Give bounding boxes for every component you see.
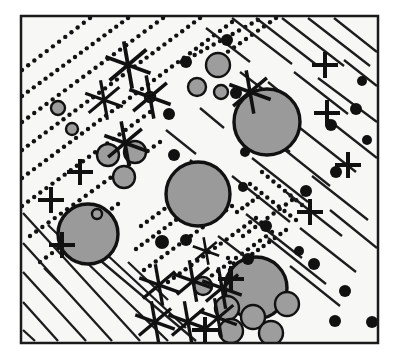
hatch-dot [142, 29, 146, 33]
clast-circle [166, 162, 230, 226]
figure-root [0, 0, 397, 358]
hatch-dot [130, 123, 134, 127]
hatch-dot [140, 243, 144, 247]
hatch-dot [56, 149, 60, 153]
hatch-dot [186, 25, 190, 29]
hatch-dot [251, 199, 255, 203]
clast-circle [66, 123, 78, 135]
hatch-dot [93, 66, 97, 70]
hatch-dot [260, 170, 264, 174]
hatch-dot [261, 244, 265, 248]
hatch-dot [112, 52, 116, 56]
hatch-dot [244, 37, 248, 41]
hatch-dot [44, 130, 48, 134]
hatch-dot [57, 39, 61, 43]
hatch-dot [155, 20, 159, 24]
hatch-dot [258, 238, 262, 242]
black-dot [155, 235, 169, 249]
hatch-dot [277, 184, 281, 188]
hatch-dot [145, 220, 149, 224]
hatch-dot [37, 81, 41, 85]
hatch-dot [79, 50, 83, 54]
hatch-dot [222, 264, 226, 268]
hatch-dot [56, 177, 60, 181]
hatch-dot [188, 51, 192, 55]
hatch-dot [32, 111, 36, 115]
hatch-dot [234, 256, 238, 260]
hatch-dot [271, 200, 275, 204]
black-dot [294, 246, 304, 256]
hatch-dot [32, 167, 36, 171]
hatch-dot [68, 140, 72, 144]
hatch-dot [168, 222, 172, 226]
hatch-dot [46, 220, 50, 224]
hatch-dot [87, 70, 91, 74]
hatch-dot [98, 118, 102, 122]
hatch-dot [62, 172, 66, 176]
hatch-dot [59, 211, 63, 215]
hatch-dot [142, 114, 146, 118]
hatch-dot [183, 267, 187, 271]
hatch-dot [265, 195, 269, 199]
hatch-dot [38, 162, 42, 166]
hatch-dot [238, 41, 242, 45]
hatch-dot [152, 78, 156, 82]
hatch-dot [140, 87, 144, 91]
hatch-dot [75, 79, 79, 83]
black-dot [260, 220, 272, 232]
hatch-dot [200, 42, 204, 46]
hatch-dot [109, 82, 113, 86]
hatch-dot [282, 209, 286, 213]
hatch-dot [67, 59, 71, 63]
hatch-dot [26, 115, 30, 119]
clast-circle [214, 85, 228, 99]
hatch-dot [210, 273, 214, 277]
black-dot [242, 253, 254, 265]
hatch-dot [75, 25, 79, 29]
hatch-dot [157, 230, 161, 234]
black-dot [238, 182, 248, 192]
hatch-dot [138, 60, 142, 64]
hatch-dot [148, 264, 152, 268]
hatch-dot [176, 60, 180, 64]
hatch-dot [100, 61, 104, 65]
hatch-dot [174, 33, 178, 37]
hatch-dot [199, 49, 203, 53]
hatch-dot [230, 32, 234, 36]
hatch-dot [156, 211, 160, 215]
hatch-dot [256, 28, 260, 32]
hatch-dot [254, 186, 258, 190]
black-dot [362, 135, 372, 145]
hatch-dot [264, 234, 268, 238]
hatch-dot [241, 234, 245, 238]
hatch-dot [26, 143, 30, 147]
black-dot [221, 34, 233, 46]
hatch-dot [226, 49, 230, 53]
hatch-dot [235, 210, 239, 214]
hatch-dot [118, 47, 122, 51]
hatch-dot [55, 121, 59, 125]
hatch-dot [277, 204, 281, 208]
hatch-dot [164, 69, 168, 73]
hatch-dot [43, 76, 47, 80]
hatch-dot [294, 218, 298, 222]
hatch-dot [38, 106, 42, 110]
hatch-dot [256, 248, 260, 252]
hatch-dot [156, 47, 160, 51]
hatch-dot [265, 216, 269, 220]
hatch-dot [130, 38, 134, 42]
hatch-dot [44, 186, 48, 190]
hatch-dot [122, 100, 126, 104]
hatch-dot [266, 175, 270, 179]
hatch-dot [162, 226, 166, 230]
black-dot [350, 103, 362, 115]
hatch-dot [259, 191, 263, 195]
hatch-dot [253, 225, 257, 229]
hatch-dot [120, 20, 124, 24]
clast-circle [188, 78, 206, 96]
hatch-dot [51, 44, 55, 48]
black-dot [240, 147, 250, 157]
black-dot [329, 315, 341, 327]
hatch-dot [55, 68, 59, 72]
hatch-dot [248, 220, 252, 224]
